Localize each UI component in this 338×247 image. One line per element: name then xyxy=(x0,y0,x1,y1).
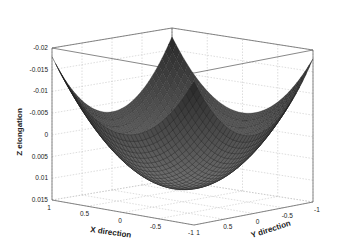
svg-text:0.015: 0.015 xyxy=(32,196,49,203)
svg-text:0: 0 xyxy=(256,218,260,225)
svg-text:-0.01: -0.01 xyxy=(33,87,48,94)
svg-text:0.5: 0.5 xyxy=(223,223,232,230)
svg-text:-0.02: -0.02 xyxy=(33,44,48,51)
surface-mesh xyxy=(52,37,313,190)
svg-text:-0.005: -0.005 xyxy=(30,109,49,116)
svg-text:0.01: 0.01 xyxy=(35,174,48,181)
svg-text:1: 1 xyxy=(196,229,200,236)
svg-text:-1: -1 xyxy=(188,229,194,236)
svg-text:-0.015: -0.015 xyxy=(30,66,49,73)
surface-plot: -0.02-0.015-0.01-0.00500.0050.010.01510.… xyxy=(0,0,338,247)
svg-text:0: 0 xyxy=(118,217,122,224)
svg-text:-1: -1 xyxy=(314,206,320,213)
svg-text:0.5: 0.5 xyxy=(80,210,89,217)
svg-text:-0.5: -0.5 xyxy=(282,212,294,219)
svg-text:0.005: 0.005 xyxy=(32,153,49,160)
svg-text:0: 0 xyxy=(44,131,48,138)
svg-text:-0.5: -0.5 xyxy=(150,223,162,230)
z-axis-label: Z elongation xyxy=(15,108,24,156)
svg-text:1: 1 xyxy=(47,204,51,211)
x-axis-label: X direction xyxy=(90,225,132,240)
